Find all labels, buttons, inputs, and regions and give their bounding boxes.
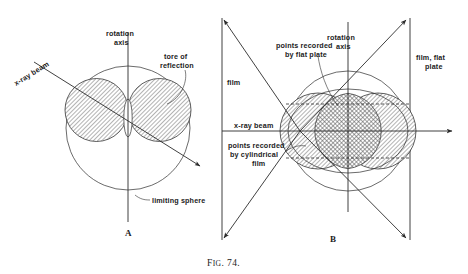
panel-a: rotation axis x-ray beam tore of reflect… [12,29,205,238]
rotation-axis-label-a-line2: axis [114,38,129,47]
rotation-axis-label-a-line1: rotation [106,29,134,38]
film-flat-plate-label-line1: film, flat [416,53,446,62]
film-flat-plate-label-line2: plate [425,62,443,71]
caption-number: . 74. [222,258,241,268]
panel-b: rotation axis film film, flat plate x-ra… [222,18,452,244]
tore-right-circle [128,79,191,142]
limiting-sphere-leader-line [135,195,150,200]
tore-left-circle [65,79,128,142]
limiting-sphere-label: limiting sphere [152,196,205,205]
flat-plate-points-label-line1: points recorded [276,41,333,50]
panel-a-letter: A [125,228,132,238]
cylindrical-points-label-line3: film [252,159,265,168]
panel-b-letter: B [330,234,336,244]
flat-plate-points-label-line2: by flat plate [285,50,327,59]
cylindrical-points-label-line1: points recorded [228,141,285,150]
rotation-axis-label-b-line2: axis [336,42,351,51]
xray-beam-label-b: x-ray beam [234,121,273,130]
figure-caption: FIG. 74. [207,258,240,268]
diffracted-ray-upper-left [224,20,300,131]
tore-label-line1: tore of [164,52,188,61]
figure-canvas: rotation axis x-ray beam tore of reflect… [0,0,468,274]
figure-74: rotation axis x-ray beam tore of reflect… [0,0,468,274]
caption-text: FIG. 74. [207,258,240,268]
xray-beam-label-a: x-ray beam [12,59,50,87]
tore-label-line2: reflection [160,61,194,70]
cylindrical-points-label-line2: by cylindrical [230,150,278,159]
caption-smallcaps: IG [213,259,222,268]
film-label: film [227,78,240,87]
